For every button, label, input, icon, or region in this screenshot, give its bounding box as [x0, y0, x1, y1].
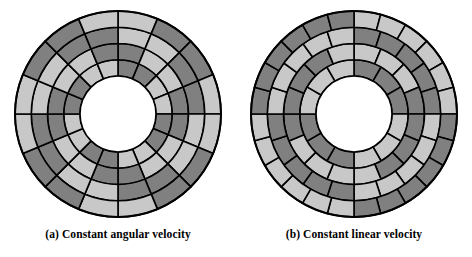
- disk-svg-cav: [12, 8, 224, 220]
- figure-root: (a) Constant angular velocity (b) Consta…: [0, 0, 472, 257]
- panel-constant-angular-velocity: (a) Constant angular velocity: [0, 0, 236, 257]
- disk-hub: [80, 76, 156, 152]
- caption-cav: (a) Constant angular velocity: [0, 228, 236, 240]
- caption-clv: (b) Constant linear velocity: [236, 228, 472, 240]
- disk-svg-clv: [248, 8, 460, 220]
- disk-hub: [316, 76, 392, 152]
- panel-constant-linear-velocity: (b) Constant linear velocity: [236, 0, 472, 257]
- disk-diagram-clv: [248, 8, 460, 220]
- disk-diagram-cav: [12, 8, 224, 220]
